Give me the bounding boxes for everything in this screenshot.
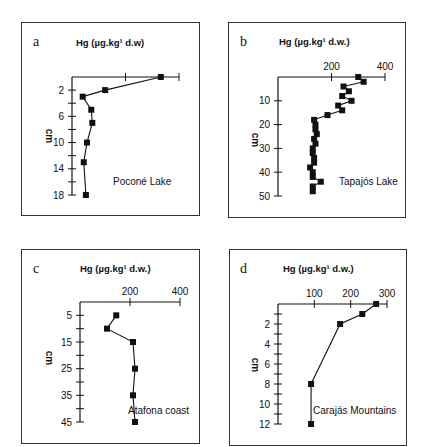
data-marker bbox=[84, 140, 90, 146]
y-tick-label: 6 bbox=[58, 111, 64, 122]
data-marker bbox=[359, 311, 365, 317]
data-marker bbox=[318, 179, 324, 185]
chart-b: 2004001020304050cmTapajós Lake bbox=[250, 61, 398, 202]
y-tick-label: 45 bbox=[61, 417, 73, 428]
data-marker bbox=[341, 84, 347, 90]
x-tick-label: 100 bbox=[306, 288, 323, 299]
data-marker bbox=[158, 74, 164, 80]
y-tick-label: 20 bbox=[259, 119, 271, 130]
data-marker bbox=[324, 112, 330, 118]
x-tick-label: 200 bbox=[122, 286, 139, 297]
y-axis-label: cm bbox=[250, 358, 261, 373]
chart-d: 10020030024681012cmCarajás Mountains bbox=[250, 288, 396, 430]
x-tick-label: 200 bbox=[323, 61, 340, 72]
x-tick-label: 400 bbox=[172, 286, 189, 297]
y-axis-label: cm bbox=[44, 129, 55, 144]
x-tick-label: 400 bbox=[377, 61, 394, 72]
data-marker bbox=[361, 79, 367, 85]
data-marker bbox=[310, 174, 316, 180]
y-tick-label: 12 bbox=[259, 419, 271, 430]
data-marker bbox=[349, 98, 355, 104]
y-tick-label: 50 bbox=[259, 191, 271, 202]
y-tick-label: 18 bbox=[53, 190, 65, 201]
site-label: Tapajós Lake bbox=[339, 176, 398, 187]
data-marker bbox=[81, 159, 87, 165]
data-marker bbox=[308, 381, 314, 387]
y-tick-label: 2 bbox=[264, 319, 270, 330]
data-marker bbox=[373, 301, 379, 307]
y-tick-label: 14 bbox=[53, 163, 65, 174]
site-label: Atafona coast bbox=[128, 405, 189, 416]
y-tick-label: 4 bbox=[264, 339, 270, 350]
y-tick-label: 10 bbox=[259, 95, 271, 106]
y-axis-label: cm bbox=[44, 351, 55, 366]
data-marker bbox=[132, 366, 138, 372]
data-marker bbox=[130, 392, 136, 398]
data-marker bbox=[130, 339, 136, 345]
data-marker bbox=[337, 321, 343, 327]
data-marker bbox=[132, 419, 138, 425]
y-tick-label: 6 bbox=[264, 359, 270, 370]
data-marker bbox=[308, 421, 314, 427]
data-marker bbox=[89, 120, 95, 126]
data-marker bbox=[83, 192, 89, 198]
data-marker bbox=[339, 107, 345, 113]
x-tick-label: 200 bbox=[342, 288, 359, 299]
data-marker bbox=[355, 74, 361, 80]
data-marker bbox=[104, 326, 110, 332]
y-tick-label: 25 bbox=[61, 363, 73, 374]
data-marker bbox=[310, 188, 316, 194]
data-marker bbox=[346, 88, 352, 94]
data-marker bbox=[88, 107, 94, 113]
chart-a: 26101418cmPoconé Lake bbox=[44, 73, 179, 201]
site-label: Carajás Mountains bbox=[313, 405, 396, 416]
x-tick-label: 300 bbox=[379, 288, 396, 299]
y-tick-label: 8 bbox=[264, 379, 270, 390]
y-tick-label: 15 bbox=[61, 337, 73, 348]
data-marker bbox=[339, 93, 345, 99]
data-marker bbox=[80, 94, 86, 100]
data-marker bbox=[102, 87, 108, 93]
site-label: Poconé Lake bbox=[113, 176, 172, 187]
y-tick-label: 40 bbox=[259, 167, 271, 178]
chart-c: 200400515253545cmAtafona coast bbox=[44, 286, 189, 428]
y-tick-label: 35 bbox=[61, 390, 73, 401]
y-axis-label: cm bbox=[250, 133, 261, 148]
data-marker bbox=[113, 312, 119, 318]
y-tick-label: 5 bbox=[66, 310, 72, 321]
y-tick-label: 2 bbox=[58, 85, 64, 96]
y-tick-label: 10 bbox=[259, 399, 271, 410]
charts-canvas: 26101418cmPoconé Lake 2004001020304050cm… bbox=[0, 0, 427, 447]
